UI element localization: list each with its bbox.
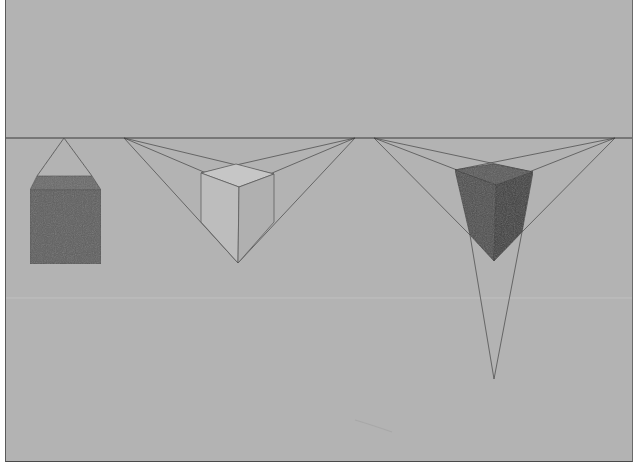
cube-front-face: [30, 190, 101, 264]
cube-right-face: [238, 174, 274, 263]
pencil-smudge: [355, 420, 392, 432]
construction-line: [37, 138, 64, 176]
cube-top-face: [30, 176, 101, 190]
construction-line: [522, 138, 615, 232]
cube-left-face: [201, 173, 239, 263]
one-point-perspective-cube: [30, 138, 101, 264]
construction-line: [455, 138, 615, 170]
construction-line: [374, 138, 470, 235]
perspective-drawing: [0, 0, 638, 475]
construction-line: [64, 138, 92, 176]
cube-right-face: [494, 172, 533, 261]
cube-left-face: [455, 170, 496, 261]
two-point-perspective-cube: [124, 138, 355, 263]
three-point-perspective-cube: [374, 138, 615, 379]
